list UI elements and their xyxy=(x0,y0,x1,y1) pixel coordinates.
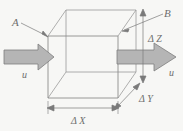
dimension-arrow-x xyxy=(47,101,119,114)
label-velocity-right: u xyxy=(169,68,174,78)
leader-line-a xyxy=(21,23,48,37)
dim-y-line xyxy=(117,86,137,107)
label-dimension-x: Δ X xyxy=(71,116,85,126)
label-face-b: B xyxy=(164,8,171,19)
label-face-a: A xyxy=(12,17,19,28)
figure-drawing xyxy=(0,0,183,131)
outflow-arrow-shape xyxy=(117,43,176,71)
dim-z-arrowhead-top xyxy=(140,9,146,16)
inflow-arrow-left xyxy=(4,44,54,70)
cube-front-face xyxy=(48,36,118,98)
label-dimension-z: Δ Z xyxy=(148,34,162,44)
leader-line-b xyxy=(122,14,163,32)
dimension-arrow-z xyxy=(140,9,146,83)
leader-b-line xyxy=(124,14,163,30)
inflow-arrow-shape xyxy=(4,44,54,70)
label-velocity-left: u xyxy=(22,70,27,80)
edge-bottom-right-depth xyxy=(118,72,136,98)
edge-top-left-depth xyxy=(48,10,66,36)
outflow-arrow-right xyxy=(117,43,176,71)
dim-z-arrowhead-bottom xyxy=(140,76,146,83)
control-volume-figure: A B u u Δ Z Δ Y Δ X xyxy=(0,0,183,131)
label-dimension-y: Δ Y xyxy=(139,94,153,104)
edge-bottom-left-depth xyxy=(48,72,66,98)
cube-front-rect xyxy=(48,36,118,98)
leader-a-arrowhead xyxy=(42,31,48,37)
